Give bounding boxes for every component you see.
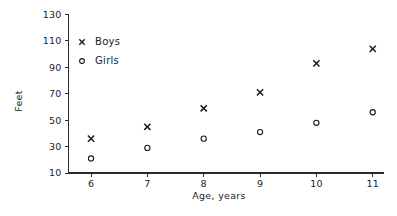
x-tick-label: 6	[88, 178, 94, 189]
chart-legend: BoysGirls	[79, 36, 120, 66]
series-girls	[88, 110, 375, 161]
data-point-girls	[201, 136, 206, 141]
y-tick-label: 110	[43, 35, 62, 46]
y-tick-label: 30	[49, 141, 62, 152]
y-axis-ticks: 1030507090110130	[43, 9, 69, 179]
data-point-girls	[257, 129, 262, 134]
y-axis-label: Feet	[13, 90, 24, 112]
x-tick-label: 11	[366, 178, 379, 189]
data-point-girls	[314, 120, 319, 125]
x-tick-label: 9	[257, 178, 263, 189]
data-point-girls	[145, 145, 150, 150]
x-axis-ticks: 67891011	[88, 173, 379, 189]
data-point-girls	[88, 156, 93, 161]
y-tick-label: 70	[49, 88, 62, 99]
scatter-chart: 1030507090110130 67891011 BoysGirls Feet…	[0, 0, 397, 216]
x-tick-label: 7	[144, 178, 150, 189]
y-tick-label: 10	[49, 167, 62, 178]
legend-label-girls: Girls	[95, 55, 119, 66]
y-tick-label: 130	[43, 9, 62, 20]
legend-label-boys: Boys	[95, 36, 120, 47]
data-point-girls	[370, 110, 375, 115]
chart-page: 1030507090110130 67891011 BoysGirls Feet…	[0, 0, 397, 216]
series-boys	[88, 46, 376, 142]
x-tick-label: 10	[310, 178, 323, 189]
y-tick-label: 50	[49, 115, 62, 126]
data-points	[88, 46, 376, 161]
legend-marker-girls	[80, 59, 85, 64]
x-tick-label: 8	[201, 178, 207, 189]
x-axis-label: Age, years	[192, 190, 246, 201]
y-tick-label: 90	[49, 62, 62, 73]
